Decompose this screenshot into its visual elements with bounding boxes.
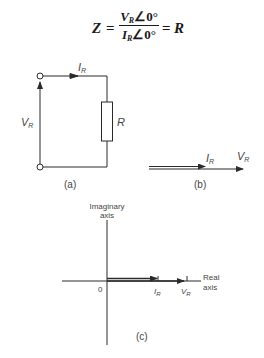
argand-diagram <box>62 220 201 345</box>
real-axis-label-2: axis <box>203 283 217 292</box>
caption-c: (c) <box>136 331 148 342</box>
argand-voltage-label: VR <box>181 287 191 297</box>
resistor <box>102 102 113 141</box>
argand-current-label: IR <box>154 287 161 297</box>
diagram-canvas: IR VR R (a) IR VR (b) Imaginary axis Rea… <box>0 0 264 358</box>
origin-label: 0 <box>98 285 103 294</box>
top-terminal <box>37 73 43 79</box>
phasor-current-label: IR <box>206 152 214 165</box>
phasor-diagram <box>149 167 243 170</box>
circuit-current-label: IR <box>78 61 86 74</box>
imag-axis-label-2: axis <box>100 211 114 220</box>
real-axis-label-1: Real <box>203 273 220 282</box>
current-arrowhead <box>70 74 78 79</box>
imag-axis-label-1: Imaginary <box>89 202 124 211</box>
resistor-label: R <box>117 116 125 128</box>
circuit-diagram <box>37 73 113 170</box>
phasor-voltage-label: VR <box>237 150 249 163</box>
caption-a: (a) <box>64 179 76 190</box>
bottom-terminal <box>37 164 43 170</box>
caption-b: (b) <box>194 179 206 190</box>
circuit-voltage-label: VR <box>21 116 33 129</box>
